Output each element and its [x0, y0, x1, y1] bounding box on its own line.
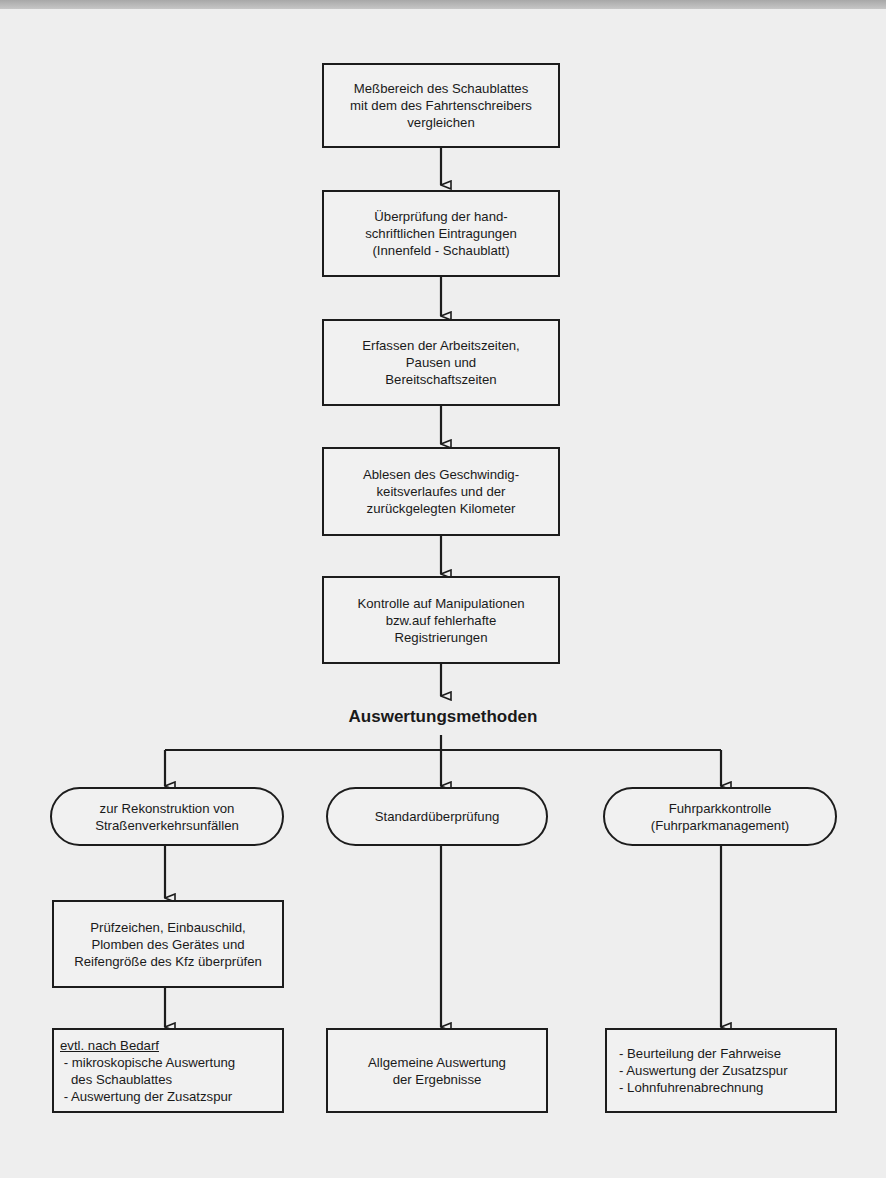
- step-box-seals-and-tire-check: Prüfzeichen, Einbauschild, Plomben des G…: [52, 900, 284, 988]
- result-box-optional-analysis: evtl. nach Bedarf - mikroskopische Auswe…: [52, 1028, 284, 1113]
- result-title: evtl. nach Bedarf: [60, 1037, 159, 1054]
- step-label: Erfassen der Arbeitszeiten, Pausen und B…: [362, 337, 520, 388]
- method-accident-reconstruction: zur Rekonstruktion von Straßenverkehrsun…: [50, 787, 284, 846]
- result-lines: - mikroskopische Auswertung des Schaubla…: [60, 1054, 235, 1105]
- step-box-speed-profile: Ablesen des Geschwindig- keitsverlaufes …: [322, 447, 560, 536]
- step-box-manipulation-check: Kontrolle auf Manipulationen bzw.auf feh…: [322, 576, 560, 664]
- result-lines: - Beurteilung der Fahrweise - Auswertung…: [619, 1045, 788, 1096]
- step-box-handwritten-entries: Überprüfung der hand- schriftlichen Eint…: [322, 190, 560, 277]
- method-standard-check: Standardüberprüfung: [326, 787, 548, 846]
- step-label: Meßbereich des Schaublattes mit dem des …: [350, 80, 532, 131]
- result-label: Allgemeine Auswertung der Ergebnisse: [368, 1054, 506, 1088]
- step-box-measurement-range: Meßbereich des Schaublattes mit dem des …: [322, 63, 560, 148]
- method-label: Fuhrparkkontrolle (Fuhrparkmanagement): [651, 800, 790, 834]
- method-label: zur Rekonstruktion von Straßenverkehrsun…: [95, 800, 239, 834]
- result-box-fleet-analysis: - Beurteilung der Fahrweise - Auswertung…: [605, 1028, 837, 1113]
- step-label: Ablesen des Geschwindig- keitsverlaufes …: [363, 466, 519, 517]
- methods-heading: Auswertungsmethoden: [0, 707, 886, 727]
- step-label: Kontrolle auf Manipulationen bzw.auf feh…: [357, 595, 524, 646]
- step-box-working-times: Erfassen der Arbeitszeiten, Pausen und B…: [322, 319, 560, 406]
- method-label: Standardüberprüfung: [375, 808, 500, 825]
- step-label: Überprüfung der hand- schriftlichen Eint…: [365, 208, 517, 259]
- result-box-general-analysis: Allgemeine Auswertung der Ergebnisse: [326, 1028, 548, 1113]
- step-label: Prüfzeichen, Einbauschild, Plomben des G…: [74, 919, 262, 970]
- method-fleet-control: Fuhrparkkontrolle (Fuhrparkmanagement): [603, 787, 837, 846]
